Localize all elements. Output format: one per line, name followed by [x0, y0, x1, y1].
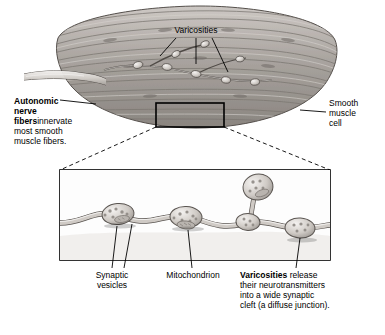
- label-smooth-muscle-cell: Smooth muscle cell: [329, 98, 381, 128]
- label-varicosities-release: Varicosities release their neurotransmit…: [240, 270, 380, 310]
- magnification-guide-lines: [60, 127, 330, 170]
- label-varicosities-top: Varicosities: [160, 25, 232, 35]
- label-autonomic-nerve-fibers: Autonomic nerve fibersinnervate most smo…: [14, 96, 80, 146]
- magnified-inset: [60, 170, 330, 260]
- label-mitochondrion: Mitochondrion: [152, 270, 234, 280]
- label-synaptic-vesicles: Synaptic vesicles: [82, 270, 142, 290]
- label-varicosities-release-bold: Varicosities: [240, 270, 287, 280]
